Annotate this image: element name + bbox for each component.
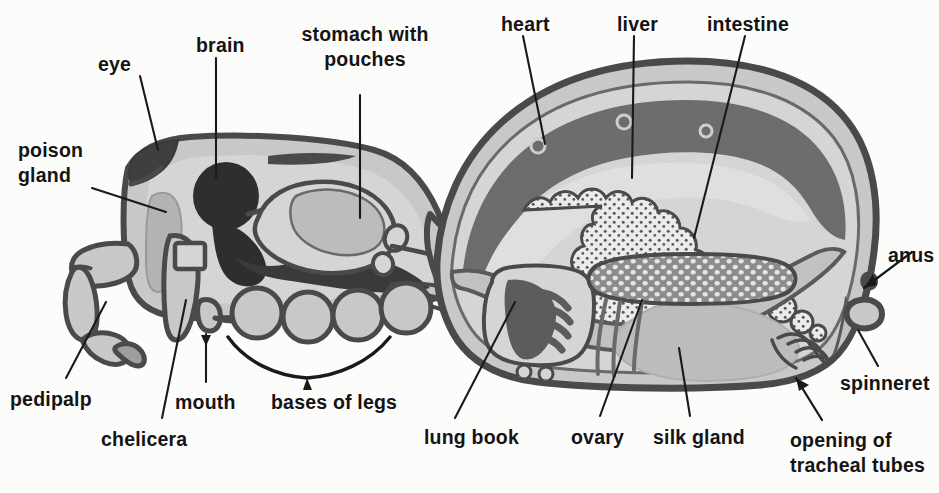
- label-mouth: mouth: [175, 390, 236, 415]
- label-spinneret: spinneret: [840, 371, 930, 396]
- label-poison-gland: poison gland: [18, 138, 83, 188]
- label-opening-of-tracheal-tubes: opening of tracheal tubes: [790, 428, 925, 478]
- anatomy-illustration: [0, 0, 939, 493]
- label-stomach-with-pouches: stomach with pouches: [302, 22, 429, 72]
- paper-grain: [0, 0, 939, 493]
- label-bases-of-legs: bases of legs: [271, 390, 397, 415]
- label-brain: brain: [196, 33, 245, 58]
- label-liver: liver: [617, 12, 658, 37]
- spider-anatomy-figure: eye brain stomach with pouches heart liv…: [0, 0, 939, 493]
- label-lung-book: lung book: [424, 425, 519, 450]
- label-anus: anus: [888, 243, 934, 268]
- label-eye: eye: [98, 52, 131, 77]
- label-ovary: ovary: [571, 425, 624, 450]
- label-pedipalp: pedipalp: [10, 387, 92, 412]
- label-heart: heart: [501, 12, 550, 37]
- label-chelicera: chelicera: [101, 427, 187, 452]
- label-silk-gland: silk gland: [653, 425, 745, 450]
- label-intestine: intestine: [707, 12, 789, 37]
